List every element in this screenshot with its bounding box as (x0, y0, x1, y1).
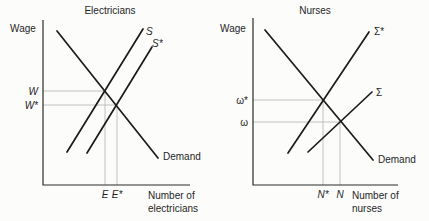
plot-area-nurses: ω*N*ωNDemandΣ*Σ (236, 18, 416, 200)
supply-curve-S-label: S (146, 26, 153, 37)
x-axis-label-line1: Number of (148, 190, 195, 201)
x-axis-label-line2: electricians (148, 203, 198, 214)
panel-nurses: Nurses Wage Number of nurses ω*N*ωNDeman… (220, 5, 416, 214)
plot-area-electricians: WEW*E*DemandSS* (25, 20, 201, 200)
supply-curve-S-star-label: S* (152, 38, 164, 49)
wage-axis-label: Wage (220, 23, 246, 34)
wage-value-label: ω (240, 117, 248, 128)
panel-title: Nurses (299, 5, 331, 16)
figure-canvas: Electricians Wage Number of electricians… (0, 0, 429, 221)
supply-curve-sigma-star-label: Σ* (374, 26, 384, 37)
quantity-value-label: N (336, 189, 344, 200)
demand-curve (57, 31, 158, 158)
supply-curve-sigma-star (288, 32, 369, 153)
wage-value-label: W (29, 86, 40, 97)
quantity-value-label: E (102, 189, 109, 200)
demand-curve-label: Demand (378, 154, 416, 165)
x-axis-label-line2: nurses (352, 203, 382, 214)
x-axis-label-line1: Number of (352, 190, 399, 201)
demand-curve-label: Demand (163, 151, 201, 162)
panel-electricians: Electricians Wage Number of electricians… (10, 5, 201, 214)
quantity-value-label: E* (112, 189, 124, 200)
quantity-value-label: N* (317, 189, 329, 200)
wage-axis-label: Wage (10, 23, 36, 34)
wage-value-label: W* (25, 100, 39, 111)
panel-title: Electricians (84, 5, 135, 16)
wage-value-label: ω* (236, 95, 248, 106)
supply-curve-sigma-label: Σ (376, 87, 382, 98)
labor-market-diagrams: Electricians Wage Number of electricians… (0, 0, 429, 221)
